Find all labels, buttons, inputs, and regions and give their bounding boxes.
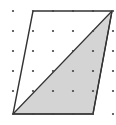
grid-dot	[52, 30, 54, 32]
grid-dot	[52, 90, 54, 92]
grid-dot	[92, 113, 94, 115]
grid-dot	[112, 30, 114, 32]
grid-dot	[92, 70, 94, 72]
grid-dot	[12, 30, 14, 32]
grid-dot	[12, 10, 14, 12]
grid-dot	[112, 50, 114, 52]
grid-dot	[72, 90, 74, 92]
grid-dot	[52, 70, 54, 72]
grid-dot	[12, 70, 14, 72]
grid-dot	[112, 10, 114, 12]
grid-dot	[32, 70, 34, 72]
grid-dot	[92, 10, 94, 12]
grid-dot	[112, 90, 114, 92]
grid-dot	[32, 113, 34, 115]
grid-dot	[92, 90, 94, 92]
grid-dot	[12, 50, 14, 52]
grid-dot	[92, 50, 94, 52]
grid-dot	[32, 10, 34, 12]
grid-dot	[52, 50, 54, 52]
grid-dot	[52, 10, 54, 12]
grid-dot	[32, 30, 34, 32]
grid-dot	[32, 90, 34, 92]
grid-dot	[72, 70, 74, 72]
grid-dot	[72, 30, 74, 32]
grid-dot	[112, 113, 114, 115]
grid-dot	[52, 113, 54, 115]
grid-dot	[92, 30, 94, 32]
grid-dot	[32, 50, 34, 52]
grid-dot	[12, 113, 14, 115]
geometry-figure	[0, 0, 116, 125]
grid-dot	[112, 70, 114, 72]
grid-dot	[72, 113, 74, 115]
grid-dot	[72, 10, 74, 12]
grid-dot	[12, 90, 14, 92]
grid-dot	[72, 50, 74, 52]
